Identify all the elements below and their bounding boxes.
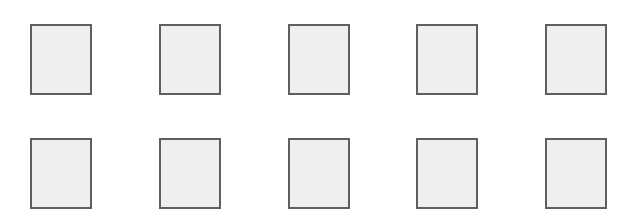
tile-r2-c1[interactable] (30, 138, 92, 209)
tile-r1-c1[interactable] (30, 24, 92, 95)
tile-r2-c3[interactable] (288, 138, 350, 209)
tile-r2-c4[interactable] (416, 138, 478, 209)
tile-r1-c3[interactable] (288, 24, 350, 95)
tile-grid (0, 0, 633, 222)
tile-r1-c2[interactable] (159, 24, 221, 95)
tile-r2-c5[interactable] (545, 138, 607, 209)
tile-r2-c2[interactable] (159, 138, 221, 209)
tile-r1-c5[interactable] (545, 24, 607, 95)
tile-r1-c4[interactable] (416, 24, 478, 95)
